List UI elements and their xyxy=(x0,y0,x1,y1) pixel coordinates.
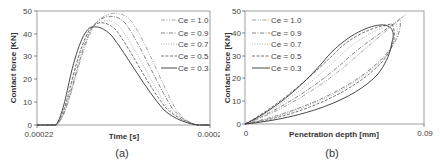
svg-text:Ce = 0.7: Ce = 0.7 xyxy=(178,40,209,49)
svg-text:Ce = 0.3: Ce = 0.3 xyxy=(271,64,302,73)
panel-caption-b: (b) xyxy=(325,147,338,159)
curve-ce-0.9 xyxy=(245,19,400,124)
svg-text:Ce = 0.9: Ce = 0.9 xyxy=(178,29,209,38)
panel-caption-a: (a) xyxy=(115,147,128,159)
svg-text:20: 20 xyxy=(232,74,241,83)
curve-ce-0.7 xyxy=(245,22,397,124)
y-ticks: 50 40 30 20 10 0 xyxy=(232,7,241,129)
x-tick-left: 0.00022 xyxy=(25,130,54,139)
legend: Ce = 1.0 Ce = 0.9 Ce = 0.7 Ce = 0.5 Ce =… xyxy=(161,16,209,73)
chart-panel-a: Contact force [KN] 50 40 30 20 10 0 xyxy=(0,0,220,165)
svg-text:40: 40 xyxy=(23,30,32,39)
svg-text:Ce = 0.5: Ce = 0.5 xyxy=(271,52,302,61)
svg-text:Ce = 0.9: Ce = 0.9 xyxy=(271,29,302,38)
legend: Ce = 1.0 Ce = 0.9 Ce = 0.7 Ce = 0.5 Ce =… xyxy=(252,16,302,73)
x-tick-right: 0.00029 xyxy=(198,130,220,139)
svg-text:30: 30 xyxy=(232,52,241,61)
x-tick-right: 0.09 xyxy=(417,129,433,138)
curve-ce-0.5 xyxy=(37,23,210,125)
x-axis-label: Time [s] xyxy=(109,132,140,141)
svg-text:Ce = 0.5: Ce = 0.5 xyxy=(178,52,209,61)
svg-text:Ce = 0.7: Ce = 0.7 xyxy=(271,40,302,49)
curves xyxy=(245,14,406,124)
svg-text:Ce = 0.3: Ce = 0.3 xyxy=(178,64,209,73)
y-axis-label: Contact force [KN] xyxy=(9,32,18,103)
chart-panel-b: Contact force [KN] 50 40 30 20 10 0 Ce =… xyxy=(220,0,440,165)
svg-text:50: 50 xyxy=(232,7,241,16)
svg-text:50: 50 xyxy=(23,7,32,16)
svg-text:Ce = 1.0: Ce = 1.0 xyxy=(178,16,209,25)
svg-text:20: 20 xyxy=(23,75,32,84)
svg-text:0: 0 xyxy=(237,120,242,129)
svg-text:0: 0 xyxy=(28,121,33,130)
x-tick-left: 0 xyxy=(244,129,249,138)
svg-text:10: 10 xyxy=(23,98,32,107)
svg-text:40: 40 xyxy=(232,29,241,38)
svg-text:Ce = 1.0: Ce = 1.0 xyxy=(271,16,302,25)
time-force-chart: Contact force [KN] 50 40 30 20 10 0 xyxy=(0,0,220,165)
y-ticks: 50 40 30 20 10 0 xyxy=(23,7,32,130)
depth-force-chart: Contact force [KN] 50 40 30 20 10 0 Ce =… xyxy=(220,0,440,165)
svg-text:10: 10 xyxy=(232,97,241,106)
svg-text:30: 30 xyxy=(23,52,32,61)
x-axis-label: Penetration depth [mm] xyxy=(289,130,379,139)
y-axis-label: Contact force [KN] xyxy=(223,32,232,103)
